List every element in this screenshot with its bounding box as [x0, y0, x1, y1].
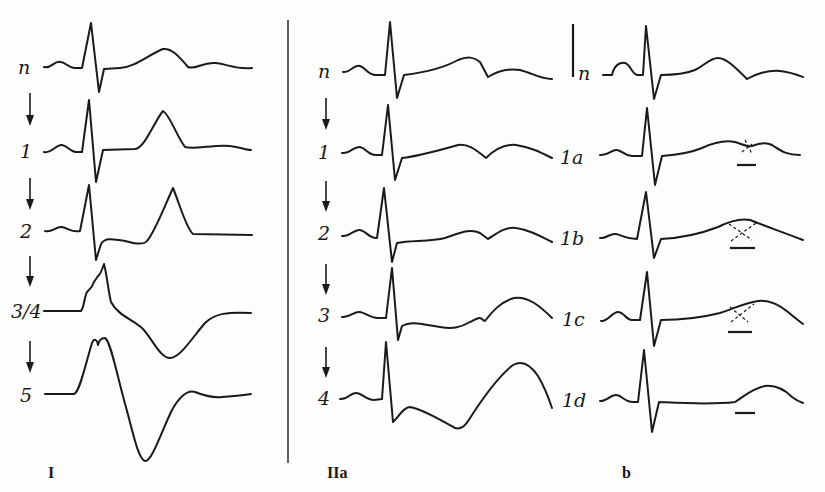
trace-label: 3 — [318, 304, 330, 326]
trace-label: 2 — [19, 220, 32, 242]
down-arrow-icon — [26, 256, 34, 287]
down-arrow-icon — [26, 178, 34, 210]
ecg-trace-I-1 — [44, 100, 251, 182]
ecg-trace-I-n — [44, 23, 252, 92]
trace-label: 4 — [317, 387, 330, 409]
trace-label: 1c — [562, 308, 585, 330]
trace-label: n — [318, 60, 330, 82]
st-extrapolation-dash — [730, 304, 754, 322]
ecg-trace-IIa-2 — [342, 188, 552, 262]
down-arrow-icon — [322, 264, 330, 295]
down-arrow-icon — [26, 93, 34, 126]
ecg-figure: n 1 2 3/4 5 I — [0, 0, 825, 492]
trace-label: 1a — [560, 146, 583, 168]
ecg-trace-b-1d — [600, 350, 803, 432]
trace-label: 3/4 — [11, 300, 42, 322]
panel-label: b — [622, 464, 631, 481]
ecg-trace-I-5 — [45, 338, 251, 461]
ecg-trace-IIa-4 — [340, 342, 552, 428]
trace-label: 5 — [20, 384, 32, 406]
trace-label: 1 — [318, 141, 330, 163]
ecg-trace-b-1b — [600, 192, 803, 258]
st-extrapolation-dash — [729, 223, 756, 241]
panel-label: IIa — [327, 464, 347, 481]
down-arrow-icon — [322, 347, 330, 378]
ecg-trace-IIa-n — [343, 22, 552, 98]
ecg-trace-IIa-3 — [342, 268, 552, 340]
trace-label: 1b — [560, 227, 584, 249]
ecg-trace-b-n — [603, 26, 803, 99]
down-arrow-icon — [322, 181, 330, 212]
ecg-trace-I-3-4 — [44, 264, 251, 358]
down-arrow-icon — [26, 341, 34, 373]
ecg-trace-b-1a — [600, 108, 800, 185]
trace-label: 1 — [20, 140, 32, 162]
ecg-trace-IIa-1 — [342, 105, 552, 180]
panel-I: n 1 2 3/4 5 I — [11, 23, 252, 481]
trace-label: n — [18, 56, 30, 78]
ecg-trace-I-2 — [45, 185, 252, 260]
ecg-trace-b-1c — [601, 272, 803, 346]
panel-label: I — [48, 464, 54, 481]
panel-b: n 1a 1b 1c 1d b — [560, 24, 803, 481]
trace-label: 1d — [562, 389, 586, 411]
trace-label: 2 — [317, 222, 330, 244]
down-arrow-icon — [322, 98, 330, 130]
trace-label: n — [578, 62, 590, 84]
panel-IIa: n 1 2 3 4 IIa — [317, 22, 552, 481]
